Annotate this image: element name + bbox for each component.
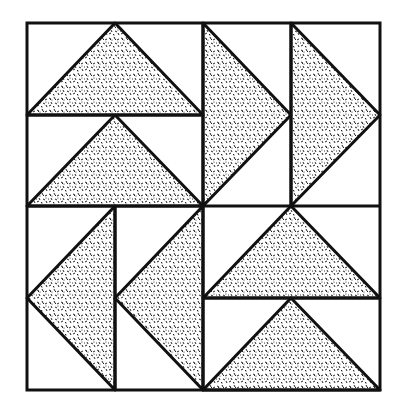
goose-triangle-up — [203, 298, 380, 390]
goose-triangle-up — [27, 115, 203, 206]
goose-triangle-left — [115, 206, 203, 390]
goose-triangle-right — [203, 23, 291, 206]
quadrant-top-left — [27, 23, 203, 206]
goose-triangle-up — [203, 206, 380, 298]
quadrant-bottom-right — [203, 206, 380, 390]
goose-triangle-left — [27, 206, 115, 390]
quadrant-bottom-left — [27, 206, 203, 390]
quilt-block-diagram — [0, 0, 400, 416]
goose-triangle-right — [291, 23, 380, 206]
goose-triangle-up — [27, 23, 203, 115]
quadrant-top-right — [203, 23, 380, 206]
